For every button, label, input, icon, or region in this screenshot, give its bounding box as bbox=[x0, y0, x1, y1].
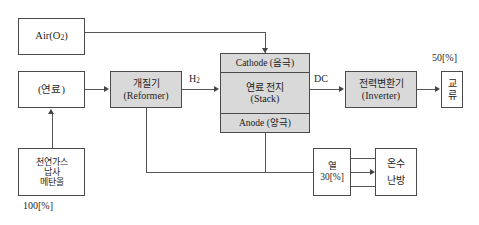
inverter-line-2: (Inverter) bbox=[362, 90, 400, 101]
block-fuel-cell-stack: Cathode (음극) 연료 전지 (Stack) Anode (양극) bbox=[220, 53, 310, 133]
block-heat: 열 30[%] bbox=[313, 148, 351, 196]
stack-core-line-1: 연료 전지 bbox=[246, 82, 285, 94]
label-dc: DC bbox=[314, 73, 328, 84]
block-fuel: (연료) bbox=[18, 71, 85, 108]
block-air: Air(O2) bbox=[18, 18, 85, 55]
hotwater-line-2: 난방 bbox=[387, 175, 405, 186]
heat-line-1: 열 bbox=[328, 161, 337, 172]
ac-output-char-2: 류 bbox=[448, 90, 457, 101]
flow-inverter-to-ac-arrowhead bbox=[435, 86, 440, 92]
block-fuel-label: (연료) bbox=[38, 84, 65, 96]
reformer-line-2: (Reformer) bbox=[124, 90, 169, 101]
flow-stack-to-inverter-line bbox=[310, 89, 340, 90]
flow-reformer-to-stack-arrowhead bbox=[214, 86, 219, 92]
flow-heat-to-hotwater-line-bottom bbox=[351, 186, 376, 187]
flow-air-arrowhead bbox=[262, 48, 268, 53]
flow-reformer-to-stack-line bbox=[182, 89, 215, 90]
flow-anode-heat-vertical bbox=[265, 133, 266, 172]
flow-heat-to-hotwater-line-top bbox=[351, 158, 376, 159]
stack-cathode-label: Cathode (음극) bbox=[236, 58, 294, 69]
flow-source-to-fuel-arrowhead bbox=[48, 109, 54, 114]
label-efficiency-input: 100[%] bbox=[23, 200, 53, 211]
ac-output-char-1: 교 bbox=[448, 78, 457, 89]
block-fuel-source: 천연가스 납사 메탄올 bbox=[18, 148, 85, 196]
stack-core-line-2: (Stack) bbox=[251, 93, 280, 105]
heat-line-2: 30[%] bbox=[320, 172, 344, 183]
block-air-label: Air(O2) bbox=[35, 30, 67, 43]
flow-heat-to-hotwater-line-mid bbox=[351, 172, 371, 173]
flow-fuel-to-reformer-arrowhead bbox=[104, 86, 109, 92]
stack-core: 연료 전지 (Stack) bbox=[220, 73, 310, 113]
flow-inverter-to-ac-line bbox=[417, 89, 436, 90]
stack-cathode: Cathode (음극) bbox=[220, 53, 310, 73]
flow-air-horizontal bbox=[85, 32, 265, 33]
flow-heat-to-hotwater-arrowhead bbox=[370, 169, 375, 175]
flow-fuel-to-reformer-line bbox=[85, 89, 105, 90]
diagram-canvas: Air(O2) (연료) 천연가스 납사 메탄올 개질기 (Reformer) … bbox=[0, 0, 479, 225]
flow-reformer-heat-vertical bbox=[146, 108, 147, 172]
hotwater-line-1: 온수 bbox=[387, 158, 405, 169]
block-ac-output: 교 류 bbox=[441, 71, 463, 108]
flow-reformer-heat-horizontal bbox=[146, 172, 314, 173]
stack-anode-label: Anode (양극) bbox=[239, 118, 291, 129]
flow-stack-to-inverter-arrowhead bbox=[339, 86, 344, 92]
source-line-1: 천연가스 bbox=[36, 157, 68, 167]
stack-anode: Anode (양극) bbox=[220, 113, 310, 133]
flow-source-to-fuel-line bbox=[52, 114, 53, 148]
block-inverter: 전력변환기 (Inverter) bbox=[345, 71, 417, 108]
inverter-line-1: 전력변환기 bbox=[359, 78, 404, 89]
label-hydrogen: H2 bbox=[189, 73, 200, 85]
block-hot-water-heating: 온수 난방 bbox=[375, 148, 417, 196]
label-efficiency-electric: 50[%] bbox=[432, 52, 457, 63]
source-line-2: 납사 bbox=[44, 167, 60, 177]
reformer-line-1: 개질기 bbox=[133, 78, 160, 89]
source-line-3: 메탄올 bbox=[40, 177, 64, 187]
block-reformer: 개질기 (Reformer) bbox=[110, 71, 182, 108]
